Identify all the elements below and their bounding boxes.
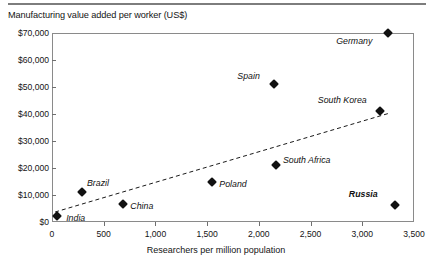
x-axis-tick-label: 2,000 [248, 229, 270, 239]
y-axis-tick-label: $10,000 [18, 190, 49, 200]
y-axis-tick-label: $70,000 [18, 28, 49, 38]
y-axis-tick-label: $20,000 [18, 163, 49, 173]
data-point-label: Brazil [87, 178, 109, 188]
y-axis-tick-mark [52, 114, 56, 115]
x-axis-tick-label: 3,000 [352, 229, 374, 239]
y-axis: $0$10,000$20,000$30,000$40,000$50,000$60… [0, 0, 49, 262]
y-axis-tick-mark [52, 60, 56, 61]
y-axis-tick-mark [52, 195, 56, 196]
y-axis-tick-label: $50,000 [18, 82, 49, 92]
y-axis-tick-mark [52, 141, 56, 142]
x-axis-tick-label: 1,500 [196, 229, 218, 239]
x-axis-tick-label: 500 [97, 229, 111, 239]
y-axis-tick-mark [52, 87, 56, 88]
data-point-label: South Africa [283, 155, 331, 165]
x-axis-tick-mark [362, 222, 363, 226]
chart-figure: Manufacturing value added per worker (US… [0, 0, 432, 262]
x-axis-tick-mark [155, 222, 156, 226]
y-axis-tick-label: $40,000 [18, 109, 49, 119]
data-point-label: Russia [349, 189, 378, 199]
x-axis-tick-mark [104, 222, 105, 226]
x-axis-title: Researchers per million population [0, 245, 432, 255]
y-axis-tick-label: $30,000 [18, 136, 49, 146]
x-axis-tick-label: 0 [50, 229, 55, 239]
x-axis-tick-mark [259, 222, 260, 226]
x-axis-tick-mark [311, 222, 312, 226]
x-axis-tick-label: 3,500 [403, 229, 425, 239]
data-point-label: China [130, 201, 153, 211]
data-point-label: India [66, 213, 85, 223]
y-axis-tick-label: $0 [39, 217, 49, 227]
data-point-label: Spain [237, 71, 260, 81]
y-axis-tick-mark [52, 168, 56, 169]
x-axis-tick-mark [207, 222, 208, 226]
data-point-label: Poland [219, 179, 246, 189]
data-point-label: Germany [336, 36, 372, 46]
x-axis-tick-label: 1,000 [145, 229, 167, 239]
header-rule [8, 3, 426, 5]
data-point-label: South Korea [318, 95, 367, 105]
y-axis-tick-label: $60,000 [18, 55, 49, 65]
x-axis-tick-label: 2,500 [300, 229, 322, 239]
